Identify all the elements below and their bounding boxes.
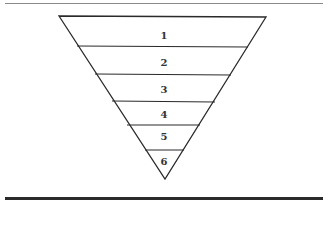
divider-2-3	[95, 74, 231, 75]
divider-1-2	[77, 46, 248, 47]
level-1-label: 1	[149, 30, 179, 42]
level-3-label: 3	[149, 84, 179, 96]
level-4-label: 4	[149, 109, 179, 121]
level-6-label: 6	[149, 156, 179, 168]
divider-3-4	[112, 101, 215, 102]
level-2-label: 2	[149, 57, 179, 69]
bottom-rule	[5, 197, 323, 200]
level-5-label: 5	[149, 131, 179, 143]
